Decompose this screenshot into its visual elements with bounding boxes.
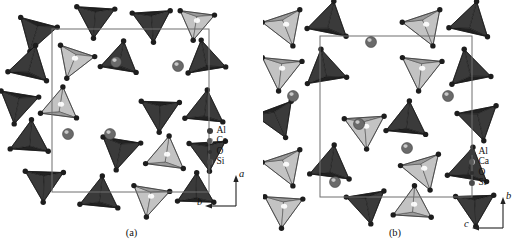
oxygen-atom <box>212 12 217 17</box>
oxygen-atom <box>398 163 403 168</box>
oxygen-atom <box>33 43 38 48</box>
oxygen-atom <box>44 78 49 83</box>
tetrahedron <box>344 188 387 226</box>
oxygen-atom <box>383 128 388 133</box>
legend-label-ca: Ca <box>479 157 490 167</box>
calcium-atom <box>402 143 413 154</box>
tetrahedron <box>263 147 303 188</box>
oxygen-atom <box>182 116 187 121</box>
oxygen-atom <box>400 20 405 25</box>
oxygen-atom <box>12 121 17 126</box>
tetrahedron <box>454 103 498 143</box>
tetrahedron-highlight <box>72 56 78 61</box>
tetrahedron <box>23 169 67 205</box>
oxygen-atom <box>299 59 304 64</box>
tetrahedron-highlight <box>411 202 417 207</box>
oxygen-atom <box>290 43 295 48</box>
oxygen-atom <box>143 161 148 166</box>
oxygen-atom <box>130 10 135 15</box>
oxygen-atom <box>133 70 138 75</box>
oxygen-atom <box>290 183 295 188</box>
oxygen-atom <box>36 94 41 99</box>
oxygen-atom <box>60 84 65 89</box>
filled-dark-circle-icon <box>468 147 476 156</box>
oxygen-atom <box>488 74 493 79</box>
oxygen-atom <box>157 130 162 135</box>
legend-entry-ca: Ca <box>468 157 489 168</box>
oxygen-atom <box>412 183 417 188</box>
oxygen-atom <box>181 166 186 171</box>
oxygen-atom <box>138 140 143 145</box>
tetrahedron-highlight <box>148 194 154 199</box>
oxygen-atom <box>98 64 103 69</box>
panel-a-legend: AlCaOSi <box>206 125 227 167</box>
axis-label-vertical-a: a <box>239 168 244 179</box>
oxygen-atom <box>91 36 96 41</box>
tetrahedron-highlight <box>164 152 170 157</box>
oxygen-atom <box>61 170 66 175</box>
oxygen-atom <box>131 183 136 188</box>
tetrahedron-highlight <box>421 166 427 171</box>
tetrahedron <box>304 0 348 39</box>
oxygen-atom <box>121 38 126 43</box>
panel-a: AlCaOSi a b (a) <box>0 0 263 250</box>
oxygen-atom <box>305 81 310 86</box>
oxygen-atom <box>462 47 467 52</box>
tetrahedron <box>263 194 306 231</box>
calcium-atom <box>63 129 74 140</box>
tetrahedron <box>263 99 294 141</box>
oxygen-atom <box>139 99 144 104</box>
legend-label-ca: Ca <box>217 136 228 146</box>
oxygen-atom <box>175 198 180 203</box>
oxygen-atom <box>304 26 309 31</box>
shaded-circle-icon <box>206 136 214 145</box>
oxygen-atom <box>346 176 351 181</box>
tetrahedron <box>139 99 182 135</box>
tetrahedron <box>398 152 441 193</box>
oxygen-atom <box>115 205 120 210</box>
oxygen-atom <box>445 173 450 178</box>
oxygen-atom <box>114 167 119 172</box>
tetrahedron <box>400 55 445 94</box>
tetrahedron-highlight <box>423 22 429 27</box>
oxygen-atom <box>223 64 228 69</box>
oxygen-atom <box>416 88 421 93</box>
panel-b-caption: (b) <box>263 227 527 238</box>
oxygen-atom <box>276 88 281 93</box>
legend-label-si: Si <box>479 178 487 188</box>
tetrahedron <box>58 43 98 81</box>
axis-arrows-a <box>196 168 256 214</box>
legend-label-o: O <box>479 168 486 178</box>
legend-entry-ca: Ca <box>206 136 227 147</box>
tetrahedron <box>307 142 352 181</box>
oxygen-atom <box>144 214 149 219</box>
oxygen-atom <box>437 7 442 12</box>
calcium-atom <box>288 91 299 102</box>
tetrahedra-layer <box>0 4 228 220</box>
oxygen-atom <box>400 55 405 60</box>
oxygen-atom <box>344 75 349 80</box>
calcium-atom <box>366 37 377 48</box>
panel-b-legend: AlCaOSi <box>468 146 489 188</box>
oxygen-atom <box>92 54 97 59</box>
tetrahedron <box>100 134 143 172</box>
oxygen-atom <box>5 69 10 74</box>
tetrahedron <box>0 88 41 126</box>
legend-entry-al: Al <box>206 125 227 136</box>
tetrahedron <box>18 15 60 55</box>
tetrahedron-highlight <box>283 162 289 167</box>
tetrahedron <box>305 47 350 87</box>
oxygen-atom <box>8 146 13 151</box>
tetrahedron <box>131 183 172 220</box>
tetrahedron <box>446 0 490 39</box>
oxygen-atom <box>283 135 288 140</box>
oxygen-atom <box>74 4 79 9</box>
oxygen-atom <box>307 171 312 176</box>
oxygen-atom <box>167 189 172 194</box>
panel-a-axis-indicator: a b <box>196 168 256 218</box>
oxygen-atom <box>199 37 204 42</box>
oxygen-atom <box>18 15 23 20</box>
oxygen-atom <box>368 221 373 226</box>
oxygen-atom <box>185 70 190 75</box>
oxygen-atom <box>168 8 173 13</box>
